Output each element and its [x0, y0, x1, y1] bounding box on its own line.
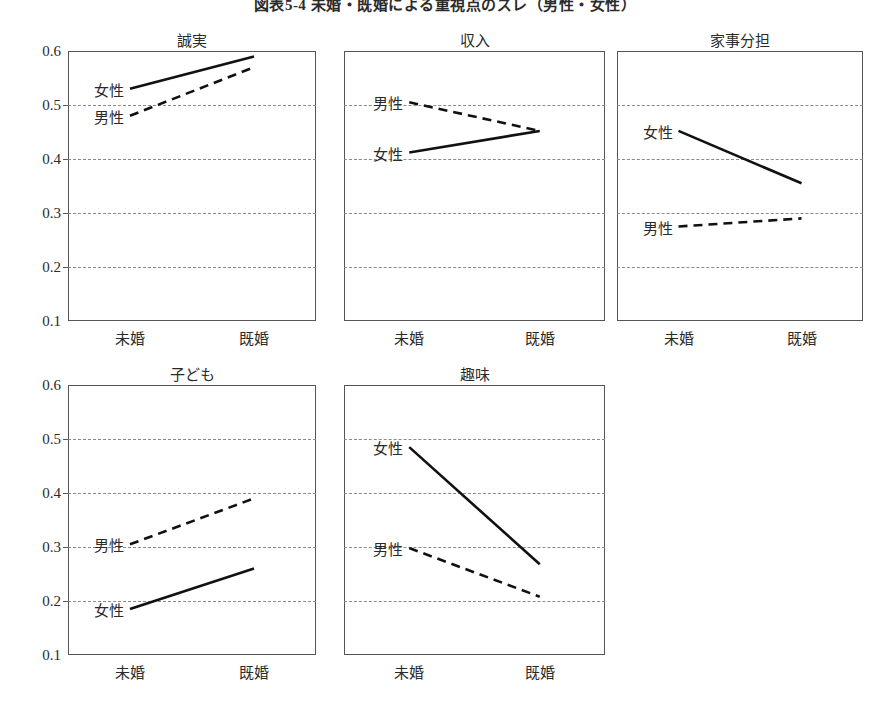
- y-tick-label: 0.2: [42, 593, 61, 610]
- panel-title: 家事分担: [617, 29, 863, 50]
- y-tick-label: 0.1: [42, 313, 61, 330]
- series-layer: [68, 385, 316, 655]
- series-layer: [68, 51, 316, 321]
- y-tick-label: 0.4: [42, 151, 61, 168]
- panel-title: 趣味: [344, 363, 605, 384]
- series-line-male: [679, 218, 802, 226]
- panel-title: 子ども: [68, 363, 316, 384]
- x-tick-label: 未婚: [394, 661, 424, 682]
- x-tick-label: 既婚: [787, 327, 817, 348]
- y-tick-label: 0.6: [42, 43, 61, 60]
- y-tick-label: 0.3: [42, 205, 61, 222]
- series-layer: [617, 51, 863, 321]
- panel-3: 家事分担未婚既婚女性男性: [617, 51, 863, 321]
- series-line-male: [130, 498, 254, 544]
- figure-title: 図表5-4 未婚・既婚による重視点のズレ（男性・女性）: [0, 0, 890, 14]
- x-tick-label: 未婚: [115, 661, 145, 682]
- y-tick-label: 0.6: [42, 377, 61, 394]
- y-tick-label: 0.3: [42, 539, 61, 556]
- panel-5: 趣味未婚既婚女性男性: [344, 385, 605, 655]
- x-tick-label: 未婚: [664, 327, 694, 348]
- series-layer: [344, 51, 605, 321]
- y-tick-label: 0.2: [42, 259, 61, 276]
- series-line-female: [679, 131, 802, 183]
- series-line-female: [130, 56, 254, 88]
- panel-title: 収入: [344, 29, 605, 50]
- x-tick-label: 既婚: [525, 661, 555, 682]
- x-tick-label: 既婚: [525, 327, 555, 348]
- panel-1: 誠実0.60.50.40.30.20.1未婚既婚女性男性: [68, 51, 316, 321]
- series-line-female: [409, 447, 540, 564]
- x-tick-label: 既婚: [239, 661, 269, 682]
- y-tick-label: 0.5: [42, 431, 61, 448]
- series-line-female: [409, 131, 540, 153]
- series-line-female: [130, 569, 254, 610]
- panel-2: 収入未婚既婚男性女性: [344, 51, 605, 321]
- series-line-male: [130, 67, 254, 116]
- panel-4: 子ども0.60.50.40.30.20.1未婚既婚男性女性: [68, 385, 316, 655]
- y-tick-label: 0.1: [42, 647, 61, 664]
- series-layer: [344, 385, 605, 655]
- x-tick-label: 未婚: [394, 327, 424, 348]
- series-line-male: [409, 548, 540, 597]
- y-tick-label: 0.4: [42, 485, 61, 502]
- y-tick-label: 0.5: [42, 97, 61, 114]
- panel-title: 誠実: [68, 29, 316, 50]
- x-tick-label: 既婚: [239, 327, 269, 348]
- figure-root: 図表5-4 未婚・既婚による重視点のズレ（男性・女性） 誠実0.60.50.40…: [0, 0, 890, 710]
- series-line-male: [409, 102, 540, 131]
- x-tick-label: 未婚: [115, 327, 145, 348]
